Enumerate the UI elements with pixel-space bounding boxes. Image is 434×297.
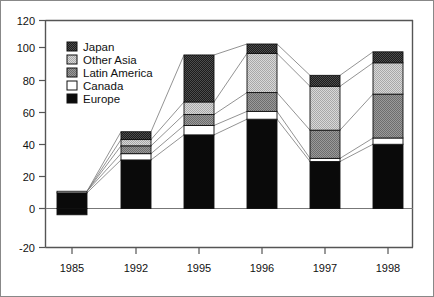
- bar-segment-latin-america-1992: [121, 146, 151, 154]
- bar-segment-japan-1997: [310, 75, 340, 86]
- bar-segment-europe-1997: [310, 162, 340, 209]
- bar-segment-latin-america-1995: [184, 115, 214, 126]
- bar-segment-canada-1997: [310, 158, 340, 161]
- x-tick-label: 1998: [376, 262, 400, 274]
- bar-segment-europe-1998: [373, 144, 403, 208]
- legend-item-canada: Canada: [67, 80, 124, 92]
- legend-item-europe: Europe: [67, 93, 120, 105]
- legend-label-europe: Europe: [83, 93, 120, 105]
- bar-segment-latin-america-1998: [373, 94, 403, 138]
- legend-label-canada: Canada: [83, 80, 124, 92]
- y-tick-label: 20: [23, 171, 35, 183]
- legend-label-japan: Japan: [83, 41, 114, 53]
- bar-segment-canada-1985: [57, 191, 87, 193]
- bar-segment-japan-1992: [121, 132, 151, 140]
- bar-segment-negative-1985: [57, 209, 87, 215]
- y-tick-label: 0: [29, 203, 35, 215]
- bar-segment-other-asia-1998: [373, 63, 403, 94]
- legend-swatch-latin-america: [67, 68, 77, 77]
- y-tick-label: -20: [19, 242, 35, 254]
- y-tick-label: 80: [23, 75, 35, 87]
- bar-segment-japan-1995: [184, 55, 214, 102]
- y-tick-label: 60: [23, 107, 35, 119]
- bar-segment-europe-1992: [121, 160, 151, 209]
- legend-item-japan: Japan: [67, 41, 114, 53]
- x-tick-label: 1996: [250, 262, 274, 274]
- stacked-bar-chart: 120 100 80 60 40 20: [0, 0, 434, 297]
- y-tick-label: 100: [17, 42, 35, 54]
- legend-swatch-other-asia: [67, 55, 77, 64]
- x-tick-label: 1992: [124, 262, 148, 274]
- y-tick-label: 120: [17, 15, 35, 27]
- x-tick-label: 1997: [313, 262, 337, 274]
- bar-segment-other-asia-1992: [121, 140, 151, 146]
- chart-canvas: 120 100 80 60 40 20: [0, 0, 434, 297]
- x-tick-label: 1985: [60, 262, 84, 274]
- x-tick-label: 1995: [187, 262, 211, 274]
- bar-segment-canada-1998: [373, 138, 403, 144]
- bar-segment-other-asia-1995: [184, 102, 214, 115]
- image-border: [1, 1, 434, 297]
- bar-segment-japan-1996: [247, 44, 277, 53]
- y-tick-label: 40: [23, 139, 35, 151]
- bar-segment-latin-america-1996: [247, 93, 277, 112]
- bar-segment-latin-america-1997: [310, 130, 340, 158]
- legend-swatch-canada: [67, 81, 77, 90]
- bar-segment-other-asia-1997: [310, 86, 340, 130]
- legend-label-other-asia: Other Asia: [83, 54, 137, 66]
- bar-segment-japan-1998: [373, 52, 403, 63]
- bar-segment-europe-1985: [57, 193, 87, 209]
- bar-segment-canada-1996: [247, 111, 277, 119]
- bar-segment-canada-1995: [184, 125, 214, 134]
- bar-segment-other-asia-1996: [247, 53, 277, 92]
- legend-label-latin-america: Latin America: [83, 67, 153, 79]
- legend-swatch-europe: [67, 94, 77, 103]
- bar-segment-canada-1992: [121, 154, 151, 160]
- legend-swatch-japan: [67, 42, 77, 51]
- bar-segment-europe-1995: [184, 135, 214, 209]
- bar-segment-europe-1996: [247, 119, 277, 208]
